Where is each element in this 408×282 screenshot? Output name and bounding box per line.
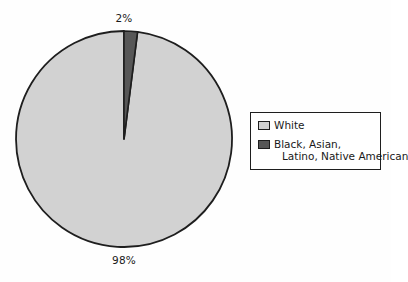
legend-label-minority-line2: Latino, Native American — [274, 150, 408, 163]
legend-swatch-minority — [258, 140, 270, 149]
legend-item-white[interactable]: White — [258, 119, 380, 132]
legend-label-minority: Black, Asian, Latino, Native American — [274, 138, 408, 163]
legend-label-minority-line1: Black, Asian, — [274, 138, 341, 150]
legend-label-white: White — [274, 119, 305, 132]
legend-swatch-white — [258, 121, 270, 130]
chart-legend: White Black, Asian, Latino, Native Ameri… — [250, 112, 381, 170]
pie-label-minor: 2% — [104, 12, 144, 24]
pie-label-major: 98% — [104, 254, 144, 266]
legend-item-minority[interactable]: Black, Asian, Latino, Native American — [258, 138, 380, 163]
